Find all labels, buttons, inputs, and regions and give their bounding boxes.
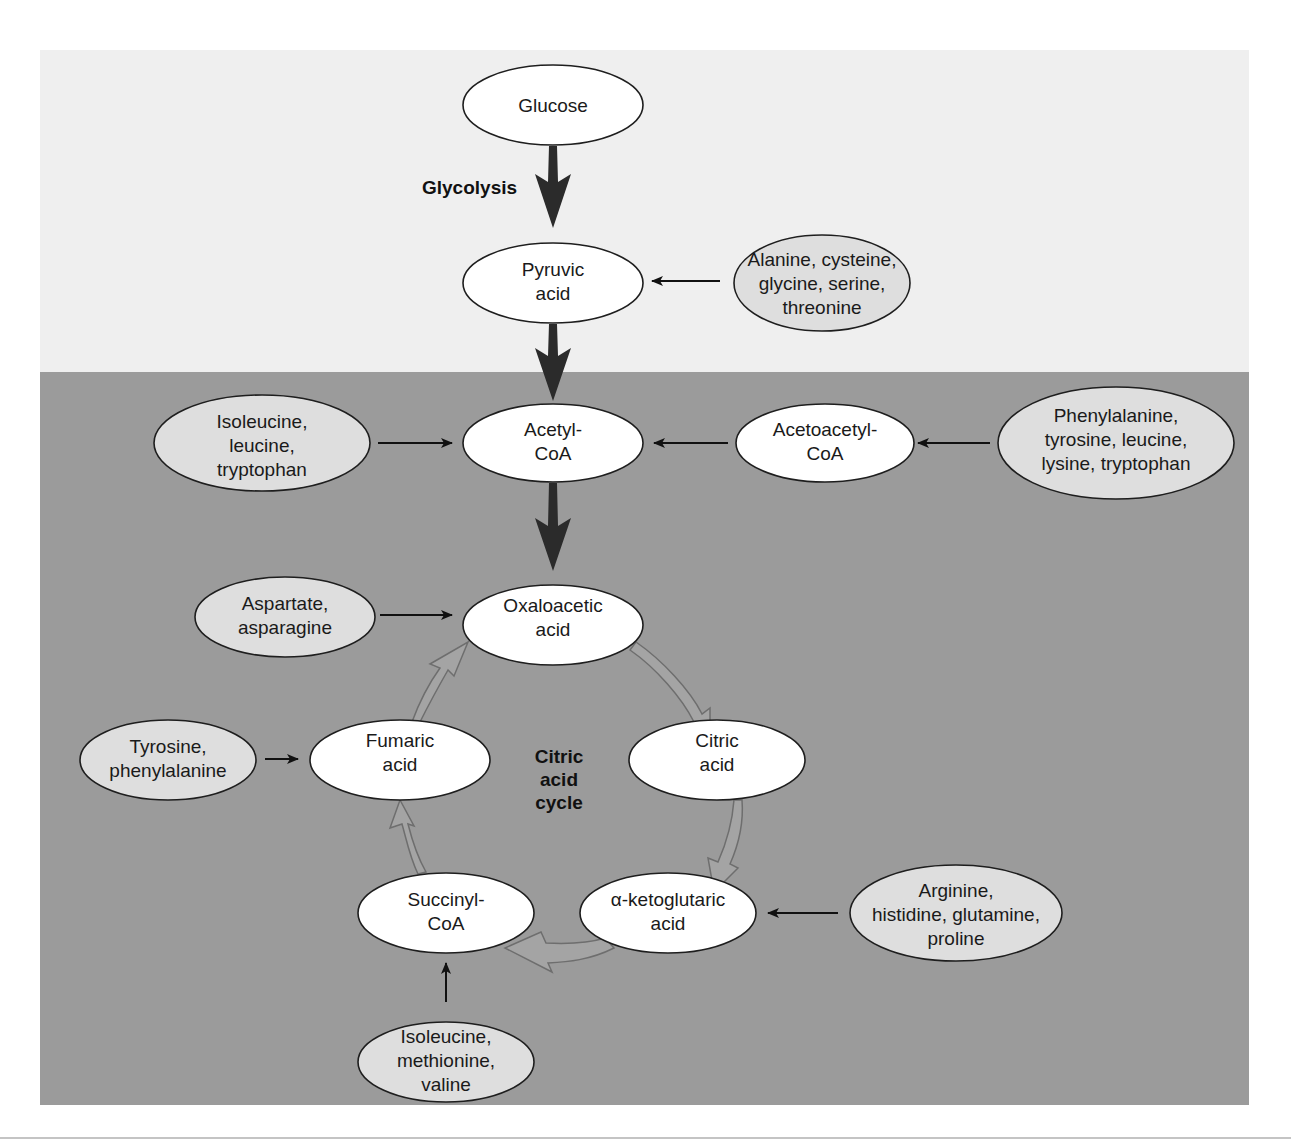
- node-label: acid: [383, 754, 418, 775]
- node-label: CoA: [807, 443, 844, 464]
- node-pyruvic-acid: Pyruvic acid: [463, 243, 643, 323]
- node-fumaric-acid: Fumaric acid: [310, 720, 490, 800]
- node-oxaloacetic-acid: Oxaloacetic acid: [463, 585, 643, 665]
- amino-group-arginine-histidine-glutamine-proline: Arginine, histidine, glutamine, proline: [850, 865, 1062, 961]
- amino-group-isoleucine-methionine-valine: Isoleucine, methionine, valine: [358, 1022, 534, 1102]
- node-label: Acetoacetyl-: [773, 419, 878, 440]
- node-glucose: Glucose: [463, 65, 643, 145]
- amino-group-phenylalanine-tyrosine-leucine-lysine-tryptophan: Phenylalanine, tyrosine, leucine, lysine…: [998, 387, 1234, 499]
- node-alpha-ketoglutaric-acid: α-ketoglutaric acid: [580, 873, 756, 953]
- node-label: asparagine: [238, 617, 332, 638]
- amino-group-tyrosine-phenylalanine: Tyrosine, phenylalanine: [80, 720, 256, 800]
- node-label: Isoleucine,: [401, 1026, 492, 1047]
- node-label: Oxaloacetic: [503, 595, 602, 616]
- node-label: Tyrosine,: [129, 736, 206, 757]
- node-citric-acid: Citric acid: [629, 720, 805, 800]
- upper-region-background: [40, 50, 1249, 372]
- node-label: acid: [536, 619, 571, 640]
- node-label: acid: [651, 913, 686, 934]
- node-label: phenylalanine: [109, 760, 226, 781]
- node-label: Alanine, cysteine,: [748, 249, 897, 270]
- amino-group-isoleucine-leucine-tryptophan: Isoleucine, leucine, tryptophan: [154, 395, 370, 491]
- amino-acid-catabolism-diagram: Glycolysis Glucose Pyruvic acid Acetyl: [0, 0, 1291, 1145]
- node-label: Arginine,: [919, 880, 994, 901]
- glycolysis-label: Glycolysis: [422, 177, 517, 198]
- citric-acid-cycle-label: Citric acid cycle: [535, 746, 584, 813]
- node-label: histidine, glutamine,: [872, 904, 1040, 925]
- cycle-label-line: cycle: [535, 792, 583, 813]
- node-label: Aspartate,: [242, 593, 329, 614]
- node-succinyl-coa: Succinyl- CoA: [358, 873, 534, 953]
- node-acetoacetyl-coa: Acetoacetyl- CoA: [736, 404, 914, 482]
- amino-group-alanine-cysteine-glycine-serine-threonine: Alanine, cysteine, glycine, serine, thre…: [734, 235, 910, 331]
- amino-group-aspartate-asparagine: Aspartate, asparagine: [195, 577, 375, 657]
- bottom-divider: [0, 1137, 1291, 1139]
- cycle-label-line: Citric: [535, 746, 584, 767]
- node-label: proline: [927, 928, 984, 949]
- node-label: acid: [536, 283, 571, 304]
- node-label: Fumaric: [366, 730, 435, 751]
- node-label: Citric: [695, 730, 738, 751]
- node-label: glycine, serine,: [759, 273, 886, 294]
- node-label: CoA: [428, 913, 465, 934]
- node-label: α-ketoglutaric: [611, 889, 725, 910]
- node-label: Acetyl-: [524, 419, 582, 440]
- node-label: valine: [421, 1074, 471, 1095]
- node-label: threonine: [782, 297, 861, 318]
- node-label: Glucose: [518, 95, 588, 116]
- node-acetyl-coa: Acetyl- CoA: [463, 404, 643, 482]
- node-label: methionine,: [397, 1050, 495, 1071]
- node-label: tryptophan: [217, 459, 307, 480]
- node-label: Succinyl-: [407, 889, 484, 910]
- node-label: leucine,: [229, 435, 295, 456]
- node-label: tyrosine, leucine,: [1045, 429, 1188, 450]
- node-label: Isoleucine,: [217, 411, 308, 432]
- node-label: Phenylalanine,: [1054, 405, 1179, 426]
- node-label: acid: [700, 754, 735, 775]
- node-label: lysine, tryptophan: [1042, 453, 1191, 474]
- cycle-label-line: acid: [540, 769, 578, 790]
- node-label: Pyruvic: [522, 259, 584, 280]
- node-label: CoA: [535, 443, 572, 464]
